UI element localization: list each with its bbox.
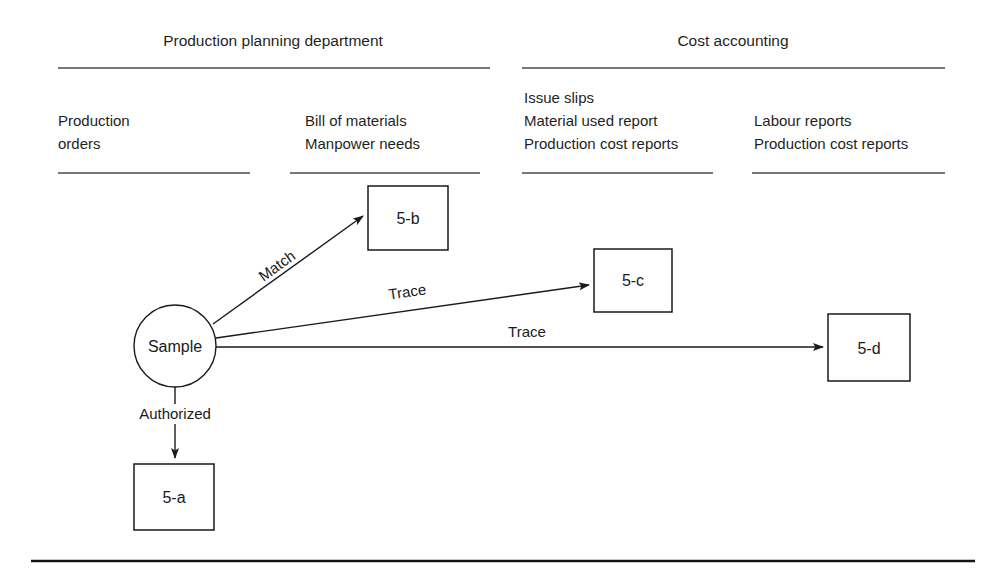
node-label-sample: Sample [148, 338, 202, 355]
node-label-5a: 5-a [162, 489, 185, 506]
node-label-5c: 5-c [622, 272, 644, 289]
column-label-bill-of-materials-line-1: Bill of materials [305, 112, 407, 129]
column-label-bill-of-materials-line-2: Manpower needs [305, 135, 420, 152]
column-label-labour-reports-line-1: Labour reports [754, 112, 852, 129]
node-label-5d: 5-d [857, 340, 880, 357]
column-label-issue-slips-line-2: Material used report [524, 112, 658, 129]
edge-label-trace-5c: Trace [387, 280, 427, 302]
diagram-canvas: Production planning department Cost acco… [0, 0, 1001, 585]
column-label-production-orders-line-1: Production [58, 112, 130, 129]
column-label-labour-reports-line-2: Production cost reports [754, 135, 908, 152]
column-label-issue-slips-line-1: Issue slips [524, 89, 594, 106]
department-title-production-planning: Production planning department [163, 32, 383, 49]
edge-label-trace-5d: Trace [508, 323, 546, 340]
column-label-issue-slips-line-3: Production cost reports [524, 135, 678, 152]
node-label-5b: 5-b [396, 210, 419, 227]
column-label-production-orders-line-2: orders [58, 135, 101, 152]
audit-sampling-diagram: Production planning department Cost acco… [0, 0, 1001, 585]
edge-label-authorized: Authorized [139, 405, 211, 422]
department-title-cost-accounting: Cost accounting [677, 32, 788, 49]
edge-sample-to-5b [213, 216, 363, 324]
